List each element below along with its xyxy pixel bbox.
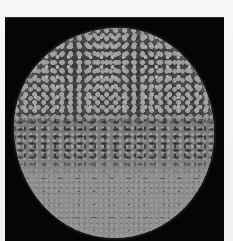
image-border [0,0,233,241]
micrograph-background [5,17,224,241]
circular-specimen [14,28,214,238]
specimen-transition-region [14,112,214,175]
